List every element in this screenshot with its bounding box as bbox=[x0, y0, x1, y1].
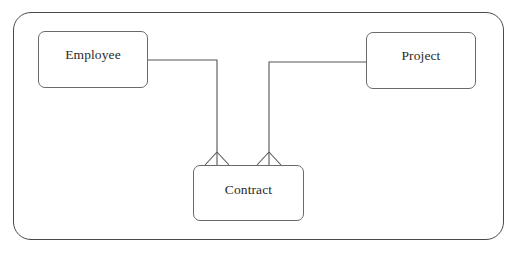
entity-label: Project bbox=[367, 48, 475, 64]
entity-label: Contract bbox=[194, 182, 303, 198]
entity-contract[interactable]: Contract bbox=[193, 165, 304, 221]
er-diagram-canvas: Employee Project Contract bbox=[0, 0, 517, 254]
entity-label: Employee bbox=[39, 47, 147, 63]
entity-employee[interactable]: Employee bbox=[38, 31, 148, 88]
entity-project[interactable]: Project bbox=[366, 32, 476, 89]
